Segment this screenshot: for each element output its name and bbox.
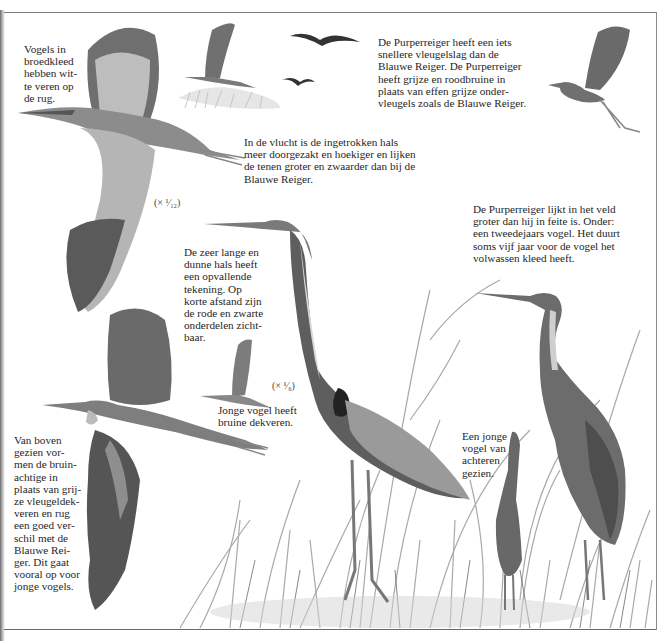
caption-wingbeat: De Purperreiger heeft een iets snellere … [378, 36, 526, 109]
caption-field-size: De Purperreiger lijkt in het veld groter… [473, 203, 620, 264]
heron-illustration [0, 0, 672, 641]
standing-scale-label: (× ¹⁄₆) [272, 380, 295, 391]
caption-juvenile-coverts: Jonge vogel heeft bruine dekveren. [218, 404, 297, 428]
caption-flight-neck: In de vlucht is de ingetrokken hals meer… [244, 136, 416, 185]
caption-neck-pattern: De zeer lange en dunne hals heeft een op… [184, 246, 263, 344]
grass-tuft-illustration [178, 87, 280, 109]
caption-young-from-behind: Een jonge vogel van achteren gezien. [462, 430, 507, 479]
flying-heron-right-illustration [548, 26, 640, 132]
flight-scale-label: (× ¹⁄₁₂) [154, 197, 180, 208]
flying-heron-juvenile-small-illustration [200, 340, 272, 408]
heron-silhouette-icon [290, 34, 360, 46]
caption-from-above: Van boven gezien vor- men de bruin- acht… [14, 434, 81, 593]
ground-shadow [210, 596, 590, 628]
flying-heron-small-illustration [184, 23, 256, 88]
caption-breeding-plumage: Vogels in broedkleed hebben wit- te vere… [24, 43, 77, 104]
field-guide-page: Vogels in broedkleed hebben wit- te vere… [0, 0, 672, 641]
heron-silhouette-small-icon [282, 78, 315, 86]
